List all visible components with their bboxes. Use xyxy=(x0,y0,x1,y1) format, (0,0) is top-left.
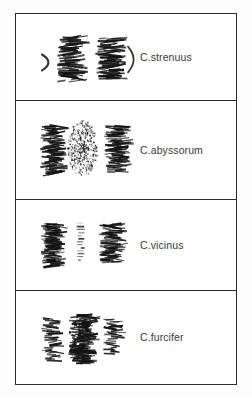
chromosome-cluster-strenuus xyxy=(16,14,148,100)
chromosome-cluster-furcifer xyxy=(16,291,148,383)
figure-frame: C.strenuus C.abyssorum C.vicinus xyxy=(15,13,237,385)
chromosome-cluster-abyssorum xyxy=(16,101,148,199)
chromosome-cluster-vicinus xyxy=(16,200,148,290)
panel-label-abyssorum: C.abyssorum xyxy=(140,144,230,156)
panel-row-furcifer: C.furcifer xyxy=(16,291,236,383)
panel-row-vicinus: C.vicinus xyxy=(16,200,236,291)
panel-label-furcifer: C.furcifer xyxy=(140,331,230,343)
figure-root: C.strenuus C.abyssorum C.vicinus xyxy=(0,0,252,398)
panel-label-strenuus: C.strenuus xyxy=(140,51,230,63)
panel-row-strenuus: C.strenuus xyxy=(16,14,236,101)
panel-row-abyssorum: C.abyssorum xyxy=(16,101,236,200)
panel-label-vicinus: C.vicinus xyxy=(140,239,230,251)
